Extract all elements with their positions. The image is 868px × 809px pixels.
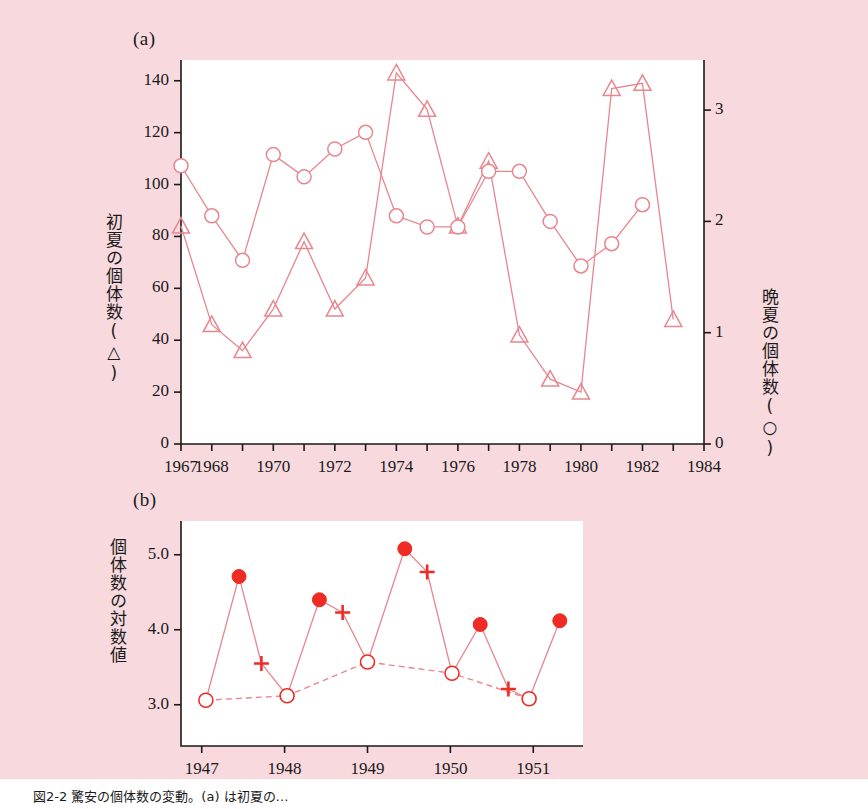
axis-tick-label: 60 — [109, 277, 169, 297]
axis-tick-label: 1950 — [410, 759, 490, 779]
panel-a-right-axis-title-text: 晩夏の個体数(○) — [760, 288, 780, 459]
axis-tick-label: 1984 — [664, 457, 744, 477]
axis-tick-label: 3 — [715, 99, 724, 119]
axis-tick-label: 1947 — [162, 759, 242, 779]
axis-tick-label: 100 — [109, 174, 169, 194]
panel-b-label: (b) — [133, 489, 157, 511]
panel-a-right-axis-title: 晩夏の個体数(○) — [760, 288, 778, 478]
axis-tick-label: 20 — [109, 381, 169, 401]
panel-a-plot-area — [181, 60, 704, 444]
axis-tick-label: 2 — [715, 210, 724, 230]
axis-tick-label: 1951 — [493, 759, 573, 779]
panel-a-label: (a) — [133, 28, 156, 50]
figure-root: (a) (b) 初夏の個体数(△) 晩夏の個体数(○) 個体数の対数値 0204… — [0, 0, 868, 809]
axis-tick-label: 0 — [109, 433, 169, 453]
axis-tick-label: 0 — [715, 433, 724, 453]
axis-tick-label: 80 — [109, 225, 169, 245]
axis-tick-label: 1 — [715, 322, 724, 342]
axis-tick-label: 5.0 — [109, 544, 169, 564]
panel-b-plot-area — [181, 521, 583, 746]
figure-caption: 図2-2 驚安の個体数の変動。(a) は初夏の… — [33, 788, 853, 806]
axis-tick-label: 140 — [109, 70, 169, 90]
axis-tick-label: 4.0 — [109, 619, 169, 639]
axis-tick-label: 40 — [109, 329, 169, 349]
axis-tick-label: 1949 — [327, 759, 407, 779]
axis-tick-label: 1948 — [245, 759, 325, 779]
axis-tick-label: 3.0 — [109, 694, 169, 714]
axis-tick-label: 120 — [109, 122, 169, 142]
